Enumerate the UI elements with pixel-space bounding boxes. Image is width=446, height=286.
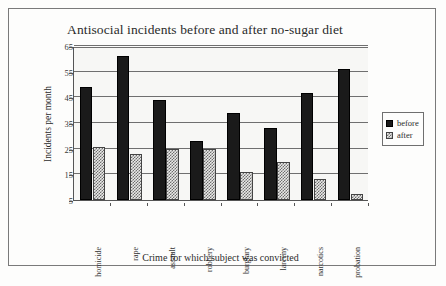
chart-page: Antisocial incidents before and after no… xyxy=(0,0,446,286)
x-tick-mark xyxy=(294,203,295,206)
bar-before-homicide xyxy=(80,87,93,200)
bar-before-larceny xyxy=(264,128,277,200)
legend-label-before: before xyxy=(397,118,419,128)
bar-after-homicide xyxy=(93,147,106,200)
x-tick-mark xyxy=(368,203,369,206)
bar-before-burglary xyxy=(227,113,240,200)
bar-before-assault xyxy=(153,100,166,200)
bar-before-robbery xyxy=(190,141,203,200)
plot-area xyxy=(73,47,368,201)
bars-layer xyxy=(74,47,368,200)
y-tick-mark xyxy=(69,201,73,202)
bar-before-rape xyxy=(117,56,130,200)
legend-swatch-before-icon xyxy=(386,120,393,127)
x-axis-tick-labels: homiciderapeassaultrobberyburglarylarcen… xyxy=(73,203,368,251)
bar-after-larceny xyxy=(277,162,290,201)
legend-swatch-after-icon xyxy=(386,132,393,139)
x-tick-mark xyxy=(147,203,148,206)
bar-after-probation xyxy=(351,194,364,200)
y-axis: 5152535455565 xyxy=(46,0,73,286)
bar-before-probation xyxy=(338,69,351,200)
x-tick-mark xyxy=(110,203,111,206)
bar-after-assault xyxy=(166,149,179,200)
bar-after-narcotics xyxy=(314,179,327,200)
bar-after-burglary xyxy=(240,172,253,200)
x-tick-mark xyxy=(257,203,258,206)
legend-label-after: after xyxy=(397,130,413,140)
gridline xyxy=(74,45,368,46)
bar-after-robbery xyxy=(203,149,216,200)
bar-after-rape xyxy=(130,154,143,200)
x-tick-mark xyxy=(331,203,332,206)
bar-before-narcotics xyxy=(301,93,314,200)
x-axis-title: Crime for which subject was convicted xyxy=(73,252,368,263)
chart-title: Antisocial incidents before and after no… xyxy=(40,22,370,38)
x-tick-mark xyxy=(184,203,185,206)
x-tick-mark xyxy=(221,203,222,206)
legend-item-after: after xyxy=(386,130,419,140)
legend: before after xyxy=(382,112,424,146)
legend-item-before: before xyxy=(386,118,419,128)
